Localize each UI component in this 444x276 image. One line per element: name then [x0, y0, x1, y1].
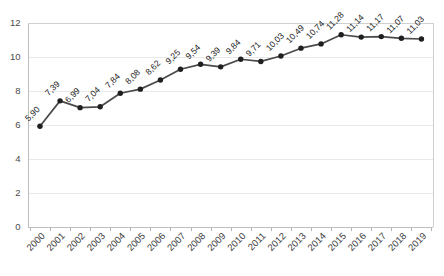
data-point-label: 9,54: [183, 42, 202, 61]
data-point-marker: [138, 86, 143, 91]
x-axis-tick-label: 2017: [365, 230, 388, 253]
data-point-label: 11,07: [384, 13, 406, 35]
x-axis-tick-label: 2019: [406, 230, 429, 253]
data-point-marker: [338, 32, 343, 37]
y-axis-tick-labels: 024681012: [10, 17, 21, 232]
data-point-marker: [238, 57, 243, 62]
data-point-marker: [158, 77, 163, 82]
x-axis-tick-marks: [31, 228, 432, 231]
y-axis-tick-label: 4: [15, 153, 20, 164]
y-axis-tick-label: 10: [10, 51, 21, 62]
data-point-label: 9,71: [244, 39, 263, 58]
data-point-label: 10,03: [264, 30, 286, 52]
data-point-label: 7,84: [103, 71, 122, 90]
x-axis-tick-label: 2008: [185, 230, 208, 253]
data-point-marker: [298, 45, 303, 50]
x-axis-tick-label: 2013: [285, 230, 308, 253]
data-point-label: 5,90: [23, 104, 42, 123]
line-chart: 024681012 200020012002200320042005200620…: [0, 0, 444, 276]
y-axis-tick-label: 0: [15, 221, 20, 232]
data-point-marker: [57, 98, 62, 103]
x-axis-tick-label: 2004: [104, 230, 127, 253]
data-point-label: 11,03: [404, 14, 426, 36]
x-axis-tick-label: 2014: [305, 230, 328, 253]
x-axis-tick-label: 2001: [44, 230, 67, 253]
data-point-marker: [37, 124, 42, 129]
data-point-marker: [419, 36, 424, 41]
x-axis-tick-labels: 2000200120022003200420052006200720082009…: [24, 230, 428, 253]
x-axis-tick-label: 2005: [125, 230, 148, 253]
data-point-label: 7,39: [43, 79, 62, 98]
data-point-marker: [278, 53, 283, 58]
x-axis-tick-label: 2016: [345, 230, 368, 253]
data-point-label: 11,28: [324, 10, 346, 32]
x-axis-tick-label: 2010: [225, 230, 248, 253]
x-axis-tick-label: 2015: [325, 230, 348, 253]
y-axis-tick-label: 2: [15, 187, 20, 198]
y-axis-tick-label: 8: [15, 85, 20, 96]
x-axis-tick-label: 2009: [205, 230, 228, 253]
data-point-marker: [218, 64, 223, 69]
y-axis-tick-label: 12: [10, 17, 21, 28]
data-point-marker: [118, 91, 123, 96]
y-axis-tick-label: 6: [15, 119, 20, 130]
data-point-label: 8,62: [143, 58, 162, 77]
data-point-label: 9,39: [204, 45, 223, 64]
x-axis-tick-label: 2018: [386, 230, 409, 253]
data-point-marker: [379, 34, 384, 39]
data-point-marker: [258, 59, 263, 64]
x-axis-tick-label: 2003: [84, 230, 107, 253]
data-point-marker: [359, 34, 364, 39]
data-point-label: 10,74: [304, 18, 326, 40]
data-point-marker: [178, 67, 183, 72]
data-point-marker: [97, 104, 102, 109]
x-axis-tick-label: 2002: [64, 230, 87, 253]
data-point-marker: [198, 62, 203, 67]
data-point-label: 8,08: [123, 67, 142, 86]
data-point-label: 9,84: [224, 37, 243, 56]
x-axis-tick-label: 2011: [246, 230, 268, 252]
x-axis-tick-label: 2012: [265, 230, 288, 253]
x-axis-tick-label: 2006: [145, 230, 168, 253]
x-axis-tick-label: 2007: [165, 230, 188, 253]
data-point-marker: [318, 41, 323, 46]
chart-canvas: 024681012 200020012002200320042005200620…: [0, 0, 444, 276]
data-point-marker: [77, 105, 82, 110]
data-point-marker: [399, 36, 404, 41]
data-point-label: 6,99: [63, 86, 82, 105]
data-point-label: 9,25: [163, 47, 182, 66]
x-axis-tick-label: 2000: [24, 230, 47, 253]
data-point-labels: 5,907,396,997,047,848,088,629,259,549,39…: [23, 10, 426, 123]
data-point-label: 7,04: [83, 85, 102, 104]
